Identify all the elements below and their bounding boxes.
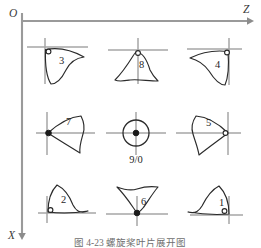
section-8-outline [115, 52, 158, 81]
section-1[interactable]: 1 [188, 186, 243, 224]
section-3-marker-open-circle-icon [46, 49, 51, 54]
section-4-marker-open-circle-icon [225, 50, 230, 55]
propeller-blade-expansion-diagram: Z X O 3 8 [0, 0, 261, 248]
figure-caption: 图 4-23 螺旋桨叶片展开图 [74, 237, 186, 248]
origin-label: O [9, 7, 18, 19]
section-2-marker-open-circle-icon [48, 208, 53, 213]
section-5-marker-open-circle-icon [223, 131, 228, 136]
hub-label: 9/0 [129, 154, 142, 165]
x-axis-label: X [7, 229, 16, 241]
section-8[interactable]: 8 [108, 38, 168, 84]
section-7-label: 7 [66, 116, 71, 127]
section-2-outline [48, 185, 88, 213]
section-4-label: 4 [215, 59, 221, 70]
section-4-outline [190, 51, 228, 85]
z-axis-arrowhead [247, 17, 254, 25]
section-8-marker-open-circle-icon [136, 51, 141, 56]
section-3-outline [45, 48, 84, 84]
section-6-label: 6 [141, 196, 146, 207]
section-1-marker-open-circle-icon [222, 209, 227, 214]
section-3[interactable]: 3 [27, 38, 88, 84]
hub-section[interactable]: 9/0 [106, 112, 166, 165]
section-7-marker-filled-dot-icon [46, 130, 52, 136]
section-2-label: 2 [61, 194, 66, 205]
z-axis-label: Z [243, 3, 250, 15]
figure-container: Z X O 3 8 [0, 0, 261, 248]
section-5-label: 5 [206, 117, 211, 128]
section-5[interactable]: 5 [176, 112, 241, 155]
section-1-label: 1 [219, 197, 224, 208]
x-axis: X [7, 13, 26, 241]
z-axis: Z [22, 3, 254, 25]
section-3-label: 3 [59, 55, 64, 66]
section-4[interactable]: 4 [187, 38, 242, 85]
section-6[interactable]: 6 [106, 187, 168, 226]
x-axis-arrowhead [18, 233, 26, 240]
section-6-marker-filled-dot-icon [134, 210, 140, 216]
hub-marker-filled-dot-icon [133, 130, 139, 136]
section-2[interactable]: 2 [38, 185, 96, 223]
section-7[interactable]: 7 [36, 112, 95, 155]
section-8-label: 8 [139, 59, 144, 70]
